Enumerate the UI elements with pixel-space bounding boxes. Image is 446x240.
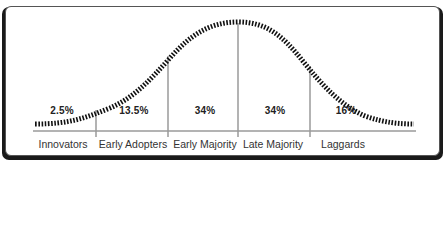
percent-innovators: 2.5% <box>32 105 92 116</box>
label-early-adopters: Early Adopters <box>93 138 173 150</box>
label-late-majority: Late Majority <box>233 138 313 150</box>
percent-laggards: 16% <box>316 105 376 116</box>
label-innovators: Innovators <box>23 138 103 150</box>
percent-early-adopters: 13.5% <box>104 105 164 116</box>
percent-late-majority: 34% <box>245 105 305 116</box>
percent-early-majority: 34% <box>175 105 235 116</box>
label-laggards: Laggards <box>303 138 383 150</box>
